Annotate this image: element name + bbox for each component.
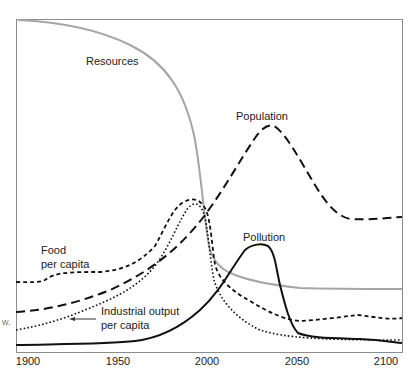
x-tick-2100: 2100: [374, 355, 398, 367]
x-tick-1900: 1900: [16, 355, 40, 367]
label-population: Population: [236, 110, 288, 123]
x-tick-2050: 2050: [285, 355, 309, 367]
label-pollution: Pollution: [243, 231, 285, 244]
label-food-line1: Food: [41, 244, 66, 257]
line-chart: [0, 0, 412, 383]
label-industrial-line2: per capita: [101, 319, 149, 332]
label-resources: Resources: [86, 55, 139, 68]
edge-text-fragment: w.: [2, 316, 11, 329]
industrial-arrowhead-icon: [69, 317, 75, 321]
x-tick-1950: 1950: [106, 355, 130, 367]
series-resources: [18, 20, 402, 289]
label-food-line2: per capita: [41, 258, 89, 271]
x-tick-2000: 2000: [195, 355, 219, 367]
label-industrial-line1: Industrial output: [101, 305, 179, 318]
series-population: [16, 126, 402, 313]
